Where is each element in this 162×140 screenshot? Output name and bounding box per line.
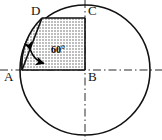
vertex-label-c: C [88, 4, 97, 17]
angle-label-60: 60° [51, 45, 65, 55]
vertex-label-b: B [88, 70, 97, 83]
figure-canvas [0, 0, 162, 140]
geometry-figure: A B C D 60° [0, 0, 162, 140]
vertex-label-a: A [4, 70, 13, 83]
vertex-label-d: D [31, 4, 40, 17]
